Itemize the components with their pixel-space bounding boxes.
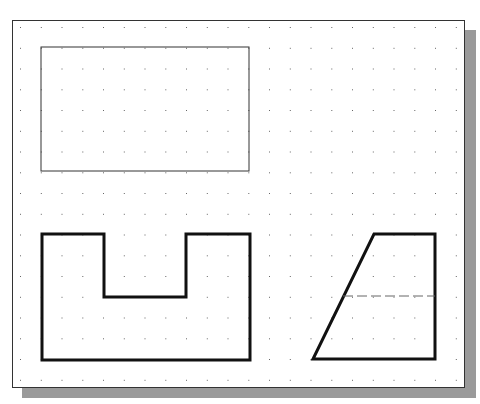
u-shaped-profile[interactable] (42, 234, 250, 360)
drawing-canvas[interactable] (0, 0, 480, 404)
grid-dots (20, 27, 457, 381)
